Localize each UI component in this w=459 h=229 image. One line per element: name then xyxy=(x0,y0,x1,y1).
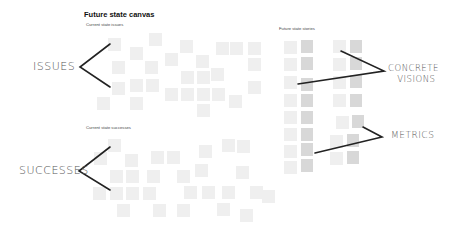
concrete-visions-arrow xyxy=(298,51,384,84)
annotation-arrows xyxy=(0,0,459,229)
annotation-successes: SUCCESSES xyxy=(19,165,89,176)
annotation-metrics: METRICS xyxy=(391,131,434,140)
annotation-issues: ISSUES xyxy=(33,61,75,72)
annotation-concrete-line1: CONCRETE xyxy=(388,64,439,73)
metrics-arrow xyxy=(315,127,382,153)
annotation-concrete-visions: CONCRETE VISIONS xyxy=(388,64,439,83)
annotation-concrete-line2: VISIONS xyxy=(388,75,439,84)
issues-arrow xyxy=(80,44,110,87)
